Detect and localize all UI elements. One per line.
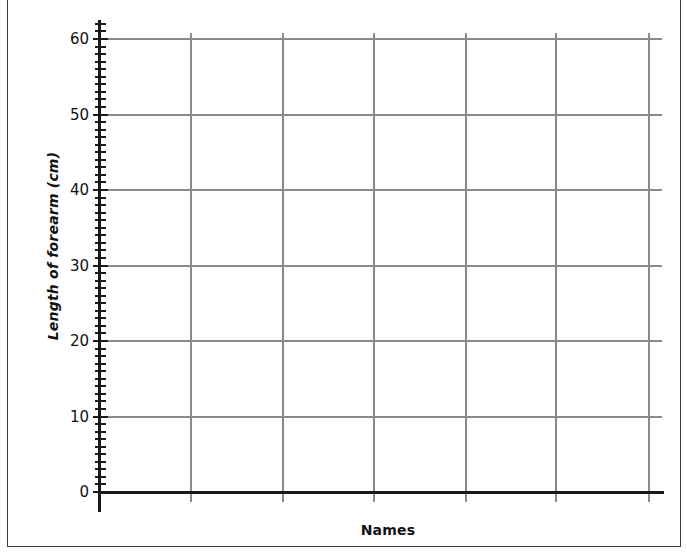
y-axis-tick-minor	[95, 212, 106, 214]
y-axis-tick-minor	[95, 355, 106, 357]
chart-plot-area: 6050403020100	[0, 0, 687, 556]
y-axis-tick-minor	[95, 453, 106, 455]
y-axis-tick-minor	[95, 242, 106, 244]
y-axis-tick-minor	[95, 159, 106, 161]
y-axis-tick-minor	[95, 257, 106, 259]
gridline-vertical	[282, 33, 284, 502]
y-axis-tick-minor	[95, 166, 106, 168]
gridline-horizontal	[99, 265, 662, 267]
y-axis-tick-minor	[95, 76, 106, 78]
gridline-vertical	[465, 33, 467, 502]
x-axis-line	[98, 491, 664, 494]
gridline-vertical	[373, 33, 375, 502]
y-axis-tick-minor	[95, 30, 106, 32]
y-axis-tick-major	[93, 340, 108, 342]
y-axis-title: Length of forearm (cm)	[45, 131, 61, 361]
y-axis-tick-minor	[95, 98, 106, 100]
y-axis-tick-major	[93, 491, 108, 493]
y-axis-tick-minor	[95, 408, 106, 410]
y-axis-tick-minor	[95, 295, 106, 297]
y-axis-tick-label: 0	[53, 485, 89, 500]
y-axis-tick-major	[93, 38, 108, 40]
y-axis-tick-minor	[95, 129, 106, 131]
y-axis-tick-minor	[95, 61, 106, 63]
worksheet-page: 6050403020100 Length of forearm (cm) Nam…	[0, 0, 687, 556]
y-axis-tick-minor	[95, 287, 106, 289]
y-axis-tick-major	[93, 114, 108, 116]
gridline-horizontal	[99, 189, 662, 191]
gridline-vertical	[190, 33, 192, 502]
y-axis-tick-minor	[95, 310, 106, 312]
y-axis-tick-minor	[95, 400, 106, 402]
y-axis-tick-minor	[95, 423, 106, 425]
y-axis-tick-minor	[95, 483, 106, 485]
y-axis-tick-label: 60	[53, 32, 89, 47]
y-axis-tick-minor	[95, 317, 106, 319]
y-axis-tick-minor	[95, 83, 106, 85]
y-axis-tick-minor	[95, 431, 106, 433]
y-axis-tick-minor	[95, 438, 106, 440]
y-axis-tick-major	[93, 189, 108, 191]
y-axis-tick-minor	[95, 393, 106, 395]
y-axis-tick-minor	[95, 204, 106, 206]
y-axis-tick-minor	[95, 378, 106, 380]
y-axis-tick-minor	[95, 181, 106, 183]
y-axis-tick-minor	[95, 302, 106, 304]
y-axis-tick-minor	[95, 468, 106, 470]
y-axis-tick-minor	[95, 121, 106, 123]
y-axis-tick-minor	[95, 325, 106, 327]
y-axis-tick-minor	[95, 348, 106, 350]
y-axis-tick-minor	[95, 234, 106, 236]
y-axis-tick-major	[93, 416, 108, 418]
y-axis-tick-minor	[95, 23, 106, 25]
y-axis-tick-minor	[95, 332, 106, 334]
y-axis-tick-minor	[95, 363, 106, 365]
y-axis-tick-label: 50	[53, 108, 89, 123]
y-axis-tick-minor	[95, 46, 106, 48]
y-axis-tick-minor	[95, 91, 106, 93]
y-axis-tick-minor	[95, 219, 106, 221]
gridline-horizontal	[99, 114, 662, 116]
gridline-vertical	[648, 33, 650, 502]
x-axis-title: Names	[318, 522, 458, 538]
y-axis-tick-minor	[95, 249, 106, 251]
y-axis-tick-minor	[95, 136, 106, 138]
y-axis-tick-minor	[95, 227, 106, 229]
y-axis-tick-minor	[95, 144, 106, 146]
y-axis-tick-minor	[95, 385, 106, 387]
y-axis-tick-minor	[95, 370, 106, 372]
y-axis-tick-minor	[95, 272, 106, 274]
y-axis-tick-minor	[95, 461, 106, 463]
y-axis-tick-minor	[95, 53, 106, 55]
y-axis-tick-minor	[95, 446, 106, 448]
y-axis-tick-minor	[95, 106, 106, 108]
y-axis-tick-minor	[95, 476, 106, 478]
y-axis-tick-minor	[95, 280, 106, 282]
y-axis-tick-minor	[95, 151, 106, 153]
y-axis-tick-label: 10	[53, 410, 89, 425]
y-axis-tick-minor	[95, 174, 106, 176]
y-axis-tick-major	[93, 265, 108, 267]
gridline-horizontal	[99, 340, 662, 342]
y-axis-tick-minor	[95, 197, 106, 199]
gridline-horizontal	[99, 416, 662, 418]
y-axis-tick-minor	[95, 68, 106, 70]
gridline-vertical	[555, 33, 557, 502]
gridline-horizontal	[99, 38, 662, 40]
